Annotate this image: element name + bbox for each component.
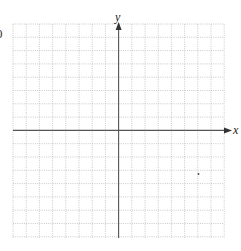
corner-label: 0 [0,27,3,40]
coordinate-plane [0,0,241,251]
stray-mark [198,173,200,175]
x-axis-label: x [233,124,238,136]
y-axis-label: y [115,11,120,23]
x-axis [13,127,232,133]
x-axis-arrow-icon [224,127,232,133]
